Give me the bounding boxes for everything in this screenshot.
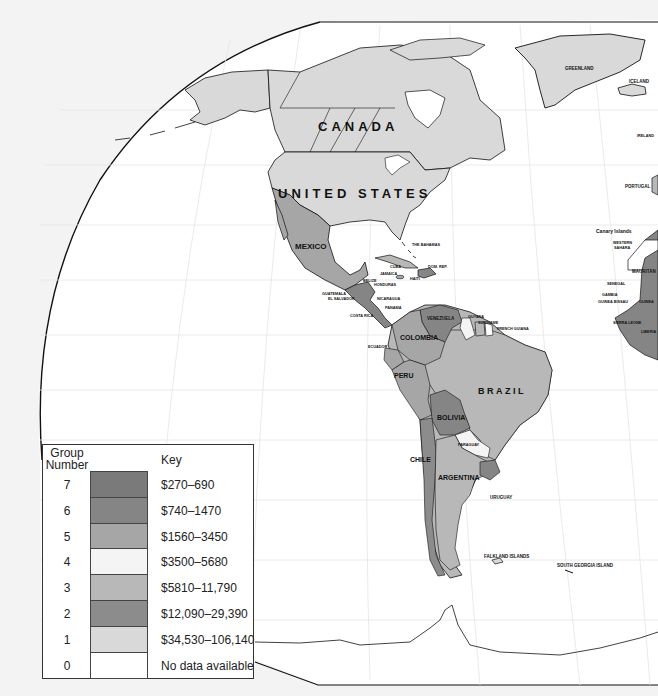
label-western-sahara-2: SAHARA bbox=[614, 246, 631, 250]
key-range: $5810–11,790 bbox=[161, 581, 237, 595]
label-portugal: PORTUGAL bbox=[625, 184, 651, 189]
label-liberia: LIBERIA bbox=[641, 330, 656, 334]
label-venezuela: VENEZUELA bbox=[427, 316, 455, 321]
key-swatch bbox=[90, 523, 148, 550]
label-uruguay: URUGUAY bbox=[490, 495, 512, 500]
key-range: $3500–5680 bbox=[161, 555, 228, 569]
label-greenland: GREENLAND bbox=[565, 66, 594, 71]
key-row: 3 $5810–11,790 bbox=[43, 574, 253, 602]
key-range: $1560–3450 bbox=[161, 530, 228, 544]
label-guatemala: GUATEMALA bbox=[322, 292, 346, 296]
key-group-number: 3 bbox=[57, 581, 77, 595]
key-row: 1$34,530–106,140 bbox=[43, 626, 253, 654]
key-group-number: 6 bbox=[57, 504, 77, 518]
key-swatch bbox=[90, 574, 148, 601]
label-canary-islands: Canary Islands bbox=[596, 228, 632, 234]
label-peru: PERU bbox=[394, 372, 413, 379]
label-jamaica: JAMAICA bbox=[380, 272, 398, 276]
label-guinea: GUINEA bbox=[639, 300, 654, 304]
key-range: $12,090–29,390 bbox=[161, 607, 248, 621]
key-swatch bbox=[90, 548, 148, 575]
label-falkland-islands: FALKLAND ISLANDS bbox=[484, 554, 529, 559]
label-paraguay: PARAGUAY bbox=[458, 443, 480, 447]
label-ecuador: ECUADOR bbox=[368, 345, 387, 349]
key-range: $34,530–106,140 bbox=[161, 633, 254, 647]
label-argentina: ARGENTINA bbox=[438, 474, 480, 481]
key-group-number: 2 bbox=[57, 607, 77, 621]
key-group-number: 7 bbox=[57, 478, 77, 492]
label-dom-rep: DOM. REP. bbox=[428, 265, 447, 269]
label-nicaragua: NICARAGUA bbox=[377, 297, 400, 301]
label-guyana: GUYANA bbox=[468, 315, 484, 319]
label-colombia: COLOMBIA bbox=[400, 334, 438, 341]
label-french-guiana: FRENCH GUIANA bbox=[497, 327, 529, 331]
label-honduras: HONDURAS bbox=[374, 283, 396, 287]
region-iberia bbox=[652, 175, 658, 195]
label-haiti: HAITI bbox=[410, 277, 420, 281]
label-cuba: CUBA bbox=[390, 265, 401, 269]
key-swatch bbox=[90, 600, 148, 627]
key-row: 0No data available bbox=[43, 652, 253, 680]
label-suriname: SURINAME bbox=[478, 321, 499, 325]
label-the-bahamas: THE BAHAMAS bbox=[412, 243, 441, 247]
label-mexico: MEXICO bbox=[295, 242, 327, 251]
label-costa-rica: COSTA RICA bbox=[350, 314, 373, 318]
label-bolivia: BOLIVIA bbox=[437, 414, 465, 421]
label-brazil: BRAZIL bbox=[478, 386, 526, 396]
label-el-salvador: EL SALVADOR bbox=[328, 297, 355, 301]
label-chile: CHILE bbox=[410, 456, 431, 463]
key-group-number-header: Group Number bbox=[43, 447, 91, 471]
key-header: Key bbox=[161, 453, 182, 467]
key-swatch bbox=[90, 626, 148, 653]
key-row: 2 $12,090–29,390 bbox=[43, 600, 253, 628]
label-iceland: ICELAND bbox=[629, 79, 650, 84]
key-swatch bbox=[90, 497, 148, 524]
label-senegal: SENEGAL bbox=[607, 282, 626, 286]
map-key-legend: Group Number Key 7 $270–690 6 $740–1470 … bbox=[42, 444, 254, 679]
key-group-number: 4 bbox=[57, 555, 77, 569]
label-western-sahara-1: WESTERN bbox=[613, 241, 632, 245]
key-row: 7 $270–690 bbox=[43, 471, 253, 499]
key-range: No data available bbox=[161, 659, 254, 673]
key-group-number: 5 bbox=[57, 530, 77, 544]
label-panama: PANAMA bbox=[385, 306, 402, 310]
label-ireland: IRELAND bbox=[637, 134, 654, 138]
key-group-number: 1 bbox=[57, 633, 77, 647]
key-row: 5 $1560–3450 bbox=[43, 523, 253, 551]
label-gambia: GAMBIA bbox=[602, 293, 618, 297]
key-row: 6 $740–1470 bbox=[43, 497, 253, 525]
key-range: $270–690 bbox=[161, 478, 214, 492]
label-canada: CANADA bbox=[318, 119, 398, 134]
label-guinea-bissau: GUINEA BISSAU bbox=[598, 300, 628, 304]
key-range: $740–1470 bbox=[161, 504, 221, 518]
key-swatch bbox=[90, 471, 148, 498]
key-row: 4 $3500–5680 bbox=[43, 548, 253, 576]
label-south-georgia-island: SOUTH GEORGIA ISLAND bbox=[557, 563, 614, 568]
key-group-number: 0 bbox=[57, 659, 77, 673]
label-sierra-leone: SIERRA LEONE bbox=[613, 321, 642, 325]
label-mauritania: MAURITAN bbox=[632, 269, 656, 274]
label-united-states: UNITED STATES bbox=[278, 186, 431, 201]
key-swatch bbox=[90, 652, 148, 679]
